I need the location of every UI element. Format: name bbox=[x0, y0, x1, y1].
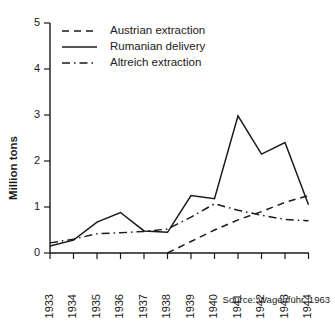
chart-figure: 0 1 2 3 4 5 Million tons 1933 19 bbox=[0, 0, 335, 332]
legend-label-austrian-extraction: Austrian extraction bbox=[110, 24, 205, 36]
legend-label-altreich-extraction: Altreich extraction bbox=[110, 56, 201, 68]
x-tick-label: 1934 bbox=[66, 294, 78, 318]
y-tick-label: 3 bbox=[34, 108, 40, 120]
series-line-rumanian-delivery bbox=[50, 116, 309, 246]
y-axis-ticks bbox=[44, 23, 50, 253]
series-line-austrian-extraction bbox=[168, 196, 309, 254]
x-tick-label: 1939 bbox=[184, 294, 196, 318]
legend-label-rumanian-delivery: Rumanian delivery bbox=[110, 40, 205, 52]
y-tick-label: 5 bbox=[34, 16, 40, 28]
line-chart: 0 1 2 3 4 5 Million tons 1933 19 bbox=[0, 0, 335, 332]
x-tick-label: 1940 bbox=[207, 294, 219, 318]
x-tick-label: 1936 bbox=[113, 294, 125, 318]
y-axis-tick-labels: 0 1 2 3 4 5 bbox=[34, 16, 40, 258]
series-line-altreich-extraction bbox=[50, 204, 309, 243]
y-tick-label: 4 bbox=[34, 62, 40, 74]
y-tick-label: 0 bbox=[34, 246, 40, 258]
y-tick-label: 2 bbox=[34, 154, 40, 166]
x-axis-ticks bbox=[50, 253, 309, 259]
data-series-group bbox=[50, 116, 309, 253]
y-tick-label: 1 bbox=[34, 200, 40, 212]
x-tick-label: 1935 bbox=[90, 294, 102, 318]
x-tick-label: 1933 bbox=[43, 294, 55, 318]
y-axis-label: Million tons bbox=[7, 136, 19, 200]
x-tick-label: 1938 bbox=[160, 294, 172, 318]
source-note: Source: Wagenführ, 1963 bbox=[223, 294, 330, 305]
chart-legend: Austrian extraction Rumanian delivery Al… bbox=[62, 24, 205, 68]
x-tick-label: 1937 bbox=[137, 294, 149, 318]
